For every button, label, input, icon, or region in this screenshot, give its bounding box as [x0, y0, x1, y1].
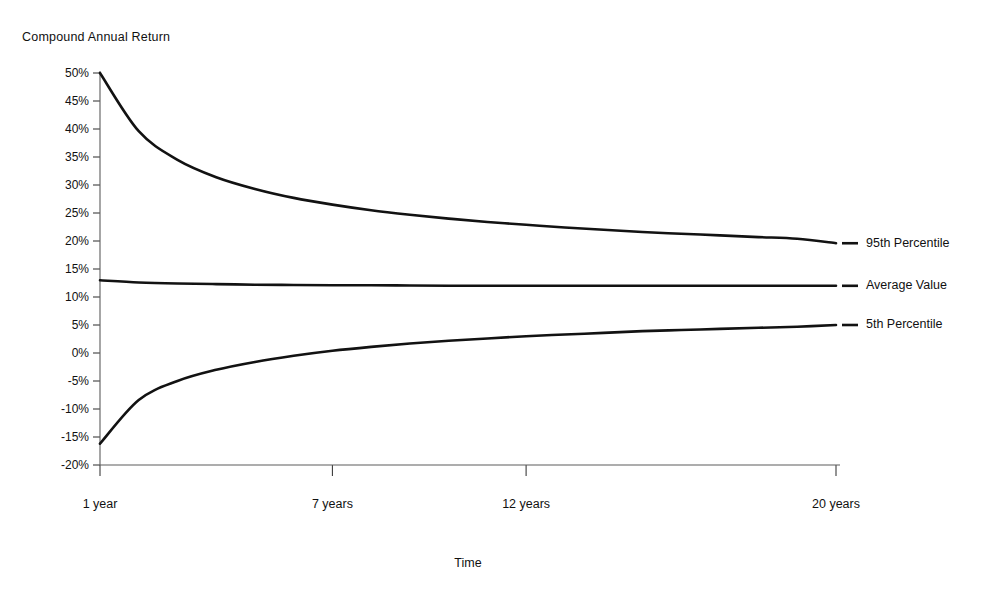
y-tick-label: 5% — [72, 318, 90, 332]
legend-label: Average Value — [866, 278, 947, 292]
series-line — [100, 73, 836, 243]
line-chart-plot: 50%45%40%35%30%25%20%15%10%5%0%-5%-10%-1… — [0, 0, 983, 600]
x-tick-label: 12 years — [502, 497, 550, 511]
y-tick-label: 35% — [65, 150, 89, 164]
y-tick-label: 40% — [65, 122, 89, 136]
y-axis-ticks: 50%45%40%35%30%25%20%15%10%5%0%-5%-10%-1… — [61, 66, 100, 472]
legend-label: 5th Percentile — [866, 317, 942, 331]
legend-label: 95th Percentile — [866, 236, 949, 250]
chart-canvas: Compound Annual Return 50%45%40%35%30%25… — [0, 0, 983, 600]
y-tick-label: -10% — [61, 402, 89, 416]
x-tick-label: 1 year — [83, 497, 118, 511]
y-tick-label: 50% — [65, 66, 89, 80]
y-tick-label: -20% — [61, 458, 89, 472]
x-tick-label: 7 years — [312, 497, 353, 511]
y-tick-label: -15% — [61, 430, 89, 444]
y-tick-label: 45% — [65, 94, 89, 108]
x-axis-ticks: 1 year7 years12 years20 years — [83, 465, 860, 511]
x-axis-title: Time — [100, 556, 836, 570]
x-tick-label: 20 years — [812, 497, 860, 511]
y-tick-label: 10% — [65, 290, 89, 304]
y-tick-label: 0% — [72, 346, 90, 360]
y-tick-label: 25% — [65, 206, 89, 220]
data-series-group — [100, 73, 836, 444]
series-legend: 95th PercentileAverage Value5th Percenti… — [842, 236, 949, 332]
y-tick-label: -5% — [68, 374, 90, 388]
y-tick-label: 20% — [65, 234, 89, 248]
series-line — [100, 325, 836, 444]
y-tick-label: 30% — [65, 178, 89, 192]
y-tick-label: 15% — [65, 262, 89, 276]
series-line — [100, 280, 836, 286]
